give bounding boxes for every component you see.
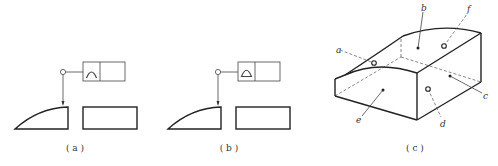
label-f: f xyxy=(466,4,472,14)
leader-e xyxy=(362,90,383,116)
panel-a: ( a ) xyxy=(15,62,137,153)
solid-point-e xyxy=(382,89,385,92)
panel-c: a b c d e f ( c ) xyxy=(335,3,488,153)
curved-part-side-view xyxy=(15,107,68,129)
leader-a xyxy=(340,50,374,63)
box-edge xyxy=(335,75,345,79)
part-front-view xyxy=(236,107,290,129)
caption-c: ( c ) xyxy=(406,143,424,153)
label-e: e xyxy=(356,115,361,125)
figure-canvas: ( a ) ( b ) xyxy=(0,0,498,166)
caption-b: ( b ) xyxy=(220,143,239,153)
box-edge xyxy=(345,36,403,75)
solid-point-c xyxy=(449,75,452,78)
hollow-point-a xyxy=(372,61,377,66)
label-c: c xyxy=(483,91,488,101)
arrow-head-icon xyxy=(62,101,65,106)
back-curved-edge xyxy=(403,28,481,36)
arrow-head-icon xyxy=(217,101,220,106)
leader-origin-circle xyxy=(215,69,220,74)
solid-point-b xyxy=(417,47,420,50)
box-edge xyxy=(335,96,417,120)
label-a: a xyxy=(336,45,341,55)
label-b: b xyxy=(421,3,427,13)
hidden-edge-bottom-back xyxy=(401,57,481,82)
arc-icon xyxy=(87,72,97,78)
tolerance-frame xyxy=(83,62,125,81)
part-front-view xyxy=(83,107,137,129)
caption-a: ( a ) xyxy=(66,143,84,153)
hollow-point-d xyxy=(426,87,431,92)
panel-b: ( b ) xyxy=(168,62,290,153)
half-disc-icon xyxy=(242,70,252,76)
leader-origin-circle xyxy=(60,69,65,74)
box-edge xyxy=(417,33,481,73)
label-d: d xyxy=(440,119,446,129)
hollow-point-f xyxy=(442,44,447,49)
curved-part-side-view xyxy=(168,107,221,129)
hidden-edge-bottom-left xyxy=(335,57,401,96)
